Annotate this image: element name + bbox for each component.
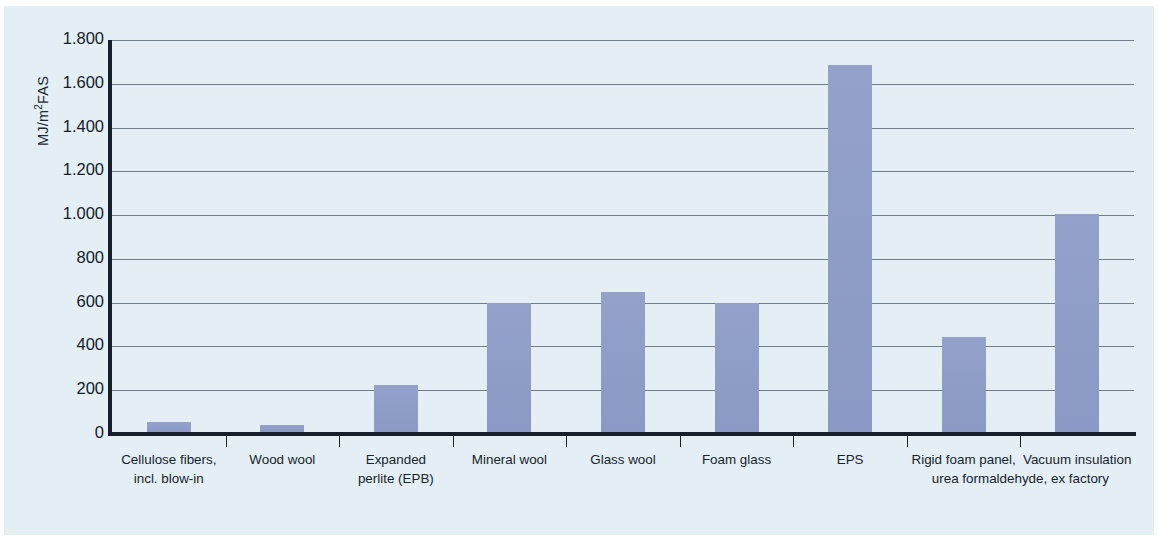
gridline: [112, 40, 1134, 41]
x-axis-tick: [907, 436, 908, 447]
x-axis-labels: Cellulose fibers,incl. blow-inWood woolE…: [112, 450, 1134, 512]
x-axis-label-line1: EPS: [837, 452, 864, 467]
x-axis-label-line1: Cellulose fibers,: [121, 452, 216, 467]
x-axis-tick: [453, 436, 454, 447]
x-axis-label-line1: Mineral wool: [472, 452, 547, 467]
gridline: [112, 171, 1134, 172]
y-axis-tick-label: 400: [18, 335, 104, 354]
x-axis-label-line1: Glass wool: [590, 452, 656, 467]
x-axis-tick: [793, 436, 794, 447]
bar: [374, 385, 418, 434]
bar: [1055, 214, 1099, 434]
x-axis-tick: [680, 436, 681, 447]
y-axis-tick-label: 1.000: [18, 204, 104, 223]
x-axis-label: Vacuum insulation: [998, 450, 1156, 469]
x-axis-label-line1: Expanded: [366, 452, 426, 467]
x-axis-tick: [1020, 436, 1021, 447]
x-axis-line: [110, 432, 1136, 436]
y-axis-tick-labels: 02004006008001.0001.2001.4001.6001.800: [4, 40, 104, 434]
bar: [601, 292, 645, 434]
gridline: [112, 259, 1134, 260]
y-axis-tick-label: 800: [18, 248, 104, 267]
y-axis-tick-label: 1.200: [18, 160, 104, 179]
y-axis-tick-label: 0: [18, 423, 104, 442]
y-axis-tick-label: 600: [18, 292, 104, 311]
x-axis-tick: [339, 436, 340, 447]
x-axis-label-line2: perlite (EPB): [317, 469, 475, 488]
x-axis-label-line2: incl. blow-in: [90, 469, 248, 488]
bar: [715, 303, 759, 434]
y-axis-tick-label: 1.800: [18, 29, 104, 48]
x-axis-label-line1: Wood wool: [249, 452, 315, 467]
y-axis-line: [108, 40, 112, 436]
x-axis-label-line1: Vacuum insulation: [1023, 452, 1131, 467]
y-axis-tick-label: 1.600: [18, 73, 104, 92]
x-axis-label-line1: Foam glass: [702, 452, 771, 467]
gridline: [112, 215, 1134, 216]
x-axis-tick: [226, 436, 227, 447]
bar: [828, 65, 872, 434]
x-axis-tick: [566, 436, 567, 447]
gridline: [112, 128, 1134, 129]
y-axis-tick-label: 1.400: [18, 117, 104, 136]
bar: [487, 303, 531, 434]
gridline: [112, 84, 1134, 85]
plot-area: [112, 40, 1134, 434]
chart-panel: MJ/m2FAS 02004006008001.0001.2001.4001.6…: [4, 6, 1154, 535]
bar: [942, 337, 986, 434]
y-axis-tick-label: 200: [18, 379, 104, 398]
x-axis-shared-sublabel: urea formaldehyde, ex factory: [885, 469, 1156, 488]
